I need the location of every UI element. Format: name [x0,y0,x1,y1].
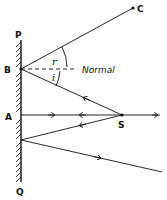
label-p: P [15,30,22,40]
label-s: S [118,120,124,130]
incident-ray-s-r3 [21,115,122,140]
label-i: i [52,72,55,83]
point-b [19,67,22,70]
arrow-r3-icon [94,157,100,159]
mirror [16,40,21,182]
angle-r-arc [62,47,67,67]
label-b: B [4,65,11,75]
label-a: A [5,112,12,122]
angle-i-arc [56,71,60,86]
rays [21,8,162,172]
point-s [120,113,123,116]
label-normal: Normal [82,65,115,75]
label-c: C [137,4,144,14]
label-r: r [52,56,58,67]
reflected-ray-bc [21,8,133,69]
incident-ray-sb [21,69,122,115]
arrow-sb-icon [84,98,90,101]
reflected-ray-r3 [21,140,162,172]
reflection-diagram: P Q B A C S r i Normal [0,0,167,200]
label-q: Q [16,187,24,197]
point-c [131,6,134,9]
